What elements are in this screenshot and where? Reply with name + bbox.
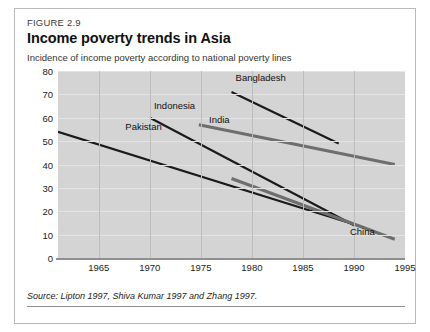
source-note: Source: Lipton 1997, Shiva Kumar 1997 an… bbox=[27, 291, 257, 301]
y-tick-label: 70 bbox=[42, 89, 53, 100]
page-title: Income poverty trends in Asia bbox=[27, 30, 231, 46]
series-label-china: China bbox=[350, 226, 375, 237]
y-tick-label: 50 bbox=[42, 136, 53, 147]
x-tick-label: 1975 bbox=[190, 262, 211, 273]
gridline-horizontal bbox=[58, 211, 405, 212]
source-divider bbox=[27, 306, 405, 307]
gridline-vertical bbox=[150, 71, 151, 258]
series-label-india: India bbox=[209, 114, 230, 125]
gridline-horizontal bbox=[58, 165, 405, 166]
gridline-horizontal bbox=[58, 71, 405, 72]
series-label-pakistan: Pakistan bbox=[125, 121, 161, 132]
x-axis: 1965197019751980198519901995 bbox=[58, 262, 405, 276]
chart-container: 01020304050607080 1965197019751980198519… bbox=[27, 71, 405, 276]
y-tick-label: 20 bbox=[42, 206, 53, 217]
x-tick-label: 1995 bbox=[394, 262, 415, 273]
series-label-bangladesh: Bangladesh bbox=[236, 72, 286, 83]
x-tick-label: 1980 bbox=[241, 262, 262, 273]
gridline-vertical bbox=[303, 71, 304, 258]
series-line-pakistan bbox=[58, 132, 364, 228]
gridline-vertical bbox=[99, 71, 100, 258]
y-tick-label: 40 bbox=[42, 159, 53, 170]
y-tick-label: 10 bbox=[42, 229, 53, 240]
x-tick-label: 1970 bbox=[139, 262, 160, 273]
y-tick-label: 80 bbox=[42, 66, 53, 77]
y-tick-label: 0 bbox=[48, 253, 53, 264]
gridline-horizontal bbox=[58, 188, 405, 189]
gridline-horizontal bbox=[58, 94, 405, 95]
figure-number: FIGURE 2.9 bbox=[27, 17, 81, 28]
x-tick-label: 1990 bbox=[343, 262, 364, 273]
gridline-horizontal bbox=[58, 141, 405, 142]
x-axis-rule bbox=[56, 258, 405, 260]
figure-subtitle: Incidence of income poverty according to… bbox=[27, 52, 292, 63]
series-label-indonesia: Indonesia bbox=[154, 100, 195, 111]
gridline-horizontal bbox=[58, 118, 405, 119]
y-tick-label: 60 bbox=[42, 112, 53, 123]
gridline-vertical bbox=[252, 71, 253, 258]
gridline-vertical bbox=[201, 71, 202, 258]
y-axis: 01020304050607080 bbox=[27, 71, 53, 258]
figure-card: FIGURE 2.9 Income poverty trends in Asia… bbox=[14, 8, 416, 324]
y-tick-label: 30 bbox=[42, 182, 53, 193]
x-tick-label: 1985 bbox=[292, 262, 313, 273]
x-tick-label: 1965 bbox=[88, 262, 109, 273]
